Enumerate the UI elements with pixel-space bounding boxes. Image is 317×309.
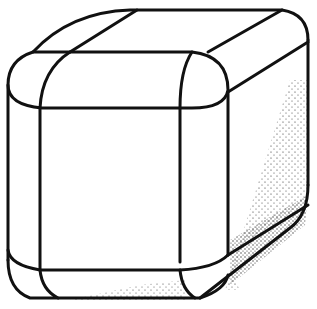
cube-drawing [0, 0, 317, 309]
stipple-shading [70, 80, 308, 300]
rounded-cube-figure [0, 0, 317, 309]
